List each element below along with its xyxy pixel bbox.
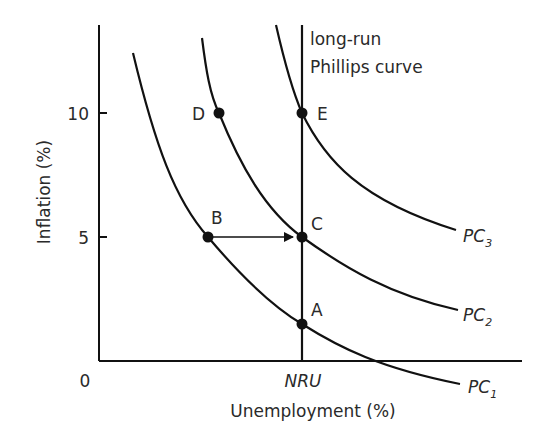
- point-c: [297, 232, 308, 243]
- y-axis-title: Inflation (%): [34, 140, 54, 244]
- pc2-curve: [202, 38, 458, 310]
- x-tick-label-nru: NRU: [285, 371, 323, 391]
- y-tick-label-10: 10: [67, 104, 89, 124]
- pc3-label: PC3: [463, 226, 492, 250]
- label-a: A: [311, 300, 323, 320]
- point-d: [214, 108, 225, 119]
- label-c: C: [311, 214, 323, 234]
- label-b: B: [211, 208, 223, 228]
- label-e: E: [317, 104, 328, 124]
- pc1-curve: [133, 53, 460, 384]
- lrpc-label-line2: Phillips curve: [310, 57, 423, 77]
- origin-label: 0: [80, 371, 91, 391]
- x-axis-title: Unemployment (%): [230, 401, 396, 421]
- label-d: D: [192, 104, 205, 124]
- point-a: [297, 319, 308, 330]
- pc2-label: PC2: [463, 305, 492, 329]
- pc1-label: PC1: [468, 377, 497, 401]
- y-tick-label-5: 5: [78, 228, 89, 248]
- point-e: [297, 108, 308, 119]
- phillips-curve-diagram: D E B C A long-run Phillips curve PC3 PC…: [0, 0, 543, 435]
- lrpc-label-line1: long-run: [310, 29, 381, 49]
- point-b: [203, 232, 214, 243]
